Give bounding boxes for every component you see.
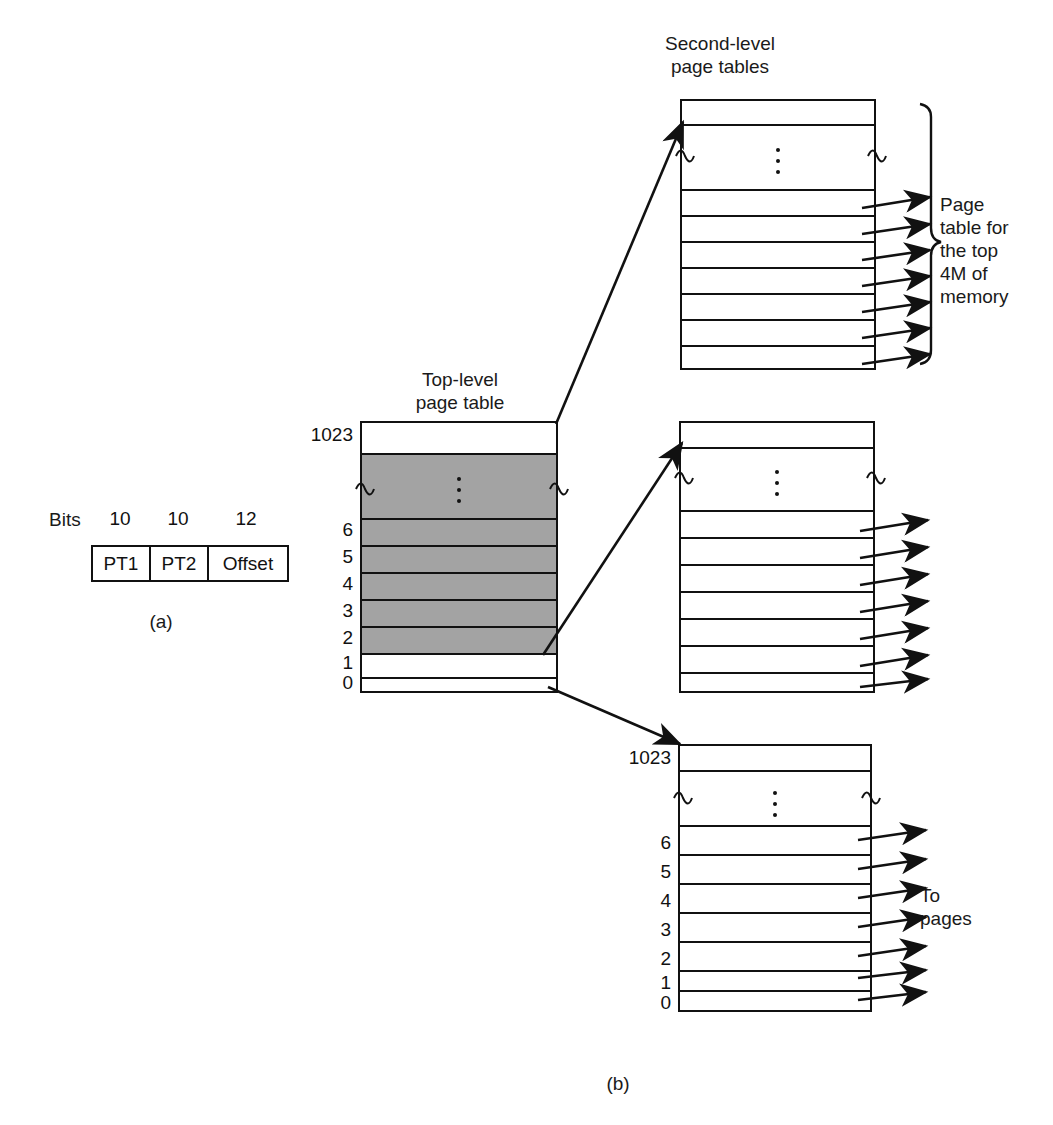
arrow-top-level-to-table-3 — [548, 687, 680, 744]
table-row — [681, 674, 873, 691]
table-row — [682, 126, 874, 191]
top-level-page-table — [360, 421, 558, 693]
table-row — [681, 593, 873, 620]
table-row — [680, 827, 870, 856]
top-level-row-label-4: 4 — [289, 573, 353, 595]
arrow-top-level-to-table-1 — [556, 122, 683, 424]
table-row — [362, 455, 556, 520]
table-row — [681, 423, 873, 449]
table-row — [362, 628, 556, 655]
virtual-address-layout-box: PT1 PT2 Offset — [91, 545, 289, 582]
top-level-title-line1: Top-level — [370, 368, 550, 391]
brace-annotation-text: Page table for the top 4M of memory — [940, 193, 1050, 308]
bit-count-offset: 12 — [226, 508, 266, 530]
table-row — [680, 885, 870, 914]
table-row — [682, 101, 874, 126]
address-field-pt2: PT2 — [151, 547, 209, 580]
table-row — [681, 449, 873, 512]
table-row — [682, 295, 874, 321]
bottom-table-row-label-6: 6 — [607, 832, 671, 854]
top-level-title-line2: page table — [370, 391, 550, 414]
table-row — [362, 423, 556, 455]
top-level-row-label-3: 3 — [289, 600, 353, 622]
table-row — [680, 992, 870, 1010]
bottom-table-row-label-0: 0 — [607, 992, 671, 1014]
address-field-pt1: PT1 — [93, 547, 151, 580]
bits-label: Bits — [49, 508, 81, 531]
table-row — [682, 217, 874, 243]
table-row — [362, 520, 556, 547]
table-row — [680, 972, 870, 992]
bottom-table-row-label-5: 5 — [607, 861, 671, 883]
bottom-table-row-label-4: 4 — [607, 890, 671, 912]
table-row — [681, 512, 873, 539]
table-row — [362, 655, 556, 679]
table-row — [680, 943, 870, 972]
table-row — [682, 191, 874, 217]
two-level-page-table-figure: Bits 10 10 12 PT1 PT2 Offset (a) Second-… — [0, 0, 1053, 1125]
vertical-ellipsis-icon — [773, 141, 783, 174]
to-pages-label-line1: To — [920, 884, 940, 907]
table-row — [680, 746, 870, 772]
top-level-row-label-0: 0 — [289, 672, 353, 694]
bottom-table-row-label-1: 1 — [607, 972, 671, 994]
top-level-row-label-6: 6 — [289, 519, 353, 541]
table-row — [681, 647, 873, 674]
table-row — [680, 856, 870, 885]
caption-a: (a) — [131, 610, 191, 633]
bit-count-pt1: 10 — [100, 508, 140, 530]
address-field-offset: Offset — [209, 547, 287, 580]
top-level-row-label-1: 1 — [289, 652, 353, 674]
table-row — [362, 679, 556, 691]
bottom-table-row-label-2: 2 — [607, 948, 671, 970]
table-row — [362, 547, 556, 574]
bottom-table-row-label-1023: 1023 — [607, 747, 671, 769]
table-row — [682, 347, 874, 368]
top-level-row-label-2: 2 — [289, 627, 353, 649]
bottom-table-row-label-3: 3 — [607, 919, 671, 941]
table-row — [681, 566, 873, 593]
top-level-row-label-5: 5 — [289, 546, 353, 568]
page-table-group-brace — [920, 104, 941, 364]
vertical-ellipsis-icon — [454, 470, 464, 503]
top-level-row-label-1023: 1023 — [289, 424, 353, 446]
table-row — [362, 601, 556, 628]
bit-count-pt2: 10 — [158, 508, 198, 530]
vertical-ellipsis-icon — [770, 784, 780, 817]
table-row — [680, 772, 870, 827]
table-row — [362, 574, 556, 601]
table-row — [681, 620, 873, 647]
second-level-page-table-bottom — [678, 744, 872, 1012]
vertical-ellipsis-icon — [772, 463, 782, 496]
table-row — [682, 321, 874, 347]
second-level-page-table-top — [680, 99, 876, 370]
table-row — [681, 539, 873, 566]
second-level-title-line2: page tables — [620, 55, 820, 78]
table-row — [682, 243, 874, 269]
caption-b: (b) — [588, 1072, 648, 1095]
table-row — [682, 269, 874, 295]
table-row — [680, 914, 870, 943]
to-pages-label-line2: pages — [920, 907, 972, 930]
second-level-page-table-middle — [679, 421, 875, 693]
arrow-top-level-to-table-2 — [543, 443, 682, 655]
second-level-title-line1: Second-level — [620, 32, 820, 55]
